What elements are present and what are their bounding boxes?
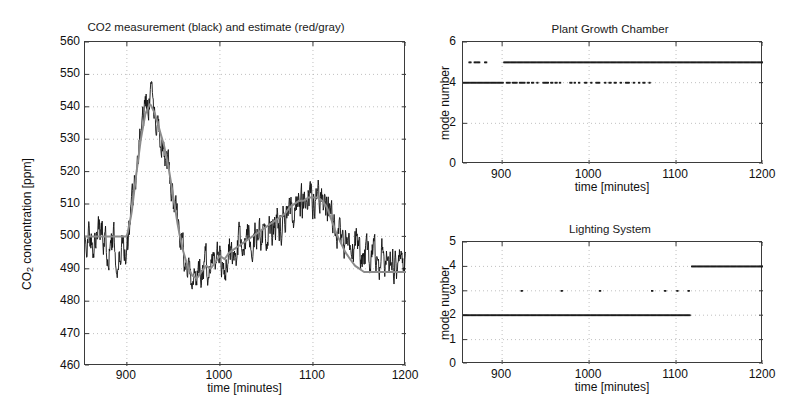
plant-growth-chamber-axes — [462, 41, 762, 163]
co2-plot-xaxis-label: time [minutes] — [84, 381, 405, 395]
lighting-system-modes-xtick-1100: 1100 — [662, 367, 688, 381]
lighting-system-yaxis-label: mode number — [438, 266, 452, 340]
plant-growth-chamber-xaxis-label: time [minutes] — [462, 180, 762, 194]
lighting-system-modes-xtick-1000: 1000 — [575, 367, 602, 381]
lighting-system-modes-xtick-900: 900 — [491, 367, 511, 381]
plant-growth-chamber-modes-ytick-0: 0 — [436, 156, 456, 170]
co2-ytick-530: 530 — [36, 131, 80, 145]
co2-ytick-480: 480 — [36, 293, 80, 307]
co2-plot-yaxis-label: CO2 concentration [ppm] — [20, 158, 35, 290]
ylabel-prefix: CO — [20, 272, 34, 290]
lighting-system-axes — [462, 241, 762, 363]
plant-growth-chamber-modes-xtick-900: 900 — [491, 167, 511, 181]
co2-ytick-540: 540 — [36, 99, 80, 113]
co2-ytick-500: 500 — [36, 228, 80, 242]
co2-ytick-510: 510 — [36, 196, 80, 210]
plant-growth-chamber-panel: Plant Growth Chamber 6420 90010001100120… — [432, 0, 812, 210]
co2-plot-title: CO2 measurement (black) and estimate (re… — [0, 21, 432, 33]
co2-ytick-560: 560 — [36, 34, 80, 48]
lighting-system-canvas — [463, 242, 763, 364]
ylabel-suffix: concentration [ppm] — [20, 158, 34, 267]
plant-growth-chamber-modes-ytick-6: 6 — [436, 34, 456, 48]
co2-ytick-550: 550 — [36, 66, 80, 80]
co2-ytick-470: 470 — [36, 326, 80, 340]
plant-growth-chamber-canvas — [463, 42, 763, 164]
co2-plot-axes — [84, 41, 405, 365]
lighting-system-modes-xtick-1200: 1200 — [749, 367, 776, 381]
figure-root: CO2 measurement (black) and estimate (re… — [0, 0, 812, 419]
co2-ytick-460: 460 — [36, 358, 80, 372]
plant-growth-chamber-modes-xtick-1000: 1000 — [575, 167, 602, 181]
lighting-system-xaxis-label: time [minutes] — [462, 380, 762, 394]
plant-growth-chamber-modes-xtick-1100: 1100 — [662, 167, 688, 181]
lighting-system-modes-ytick-0: 0 — [436, 356, 456, 370]
co2-xtick-1000: 1000 — [206, 368, 233, 382]
plant-growth-chamber-yaxis-label: mode number — [438, 66, 452, 140]
co2-plot-canvas — [85, 42, 406, 366]
co2-ytick-490: 490 — [36, 261, 80, 275]
co2-xtick-1200: 1200 — [392, 368, 419, 382]
lighting-system-panel: Lighting System 543210 900100011001200 t… — [432, 210, 812, 419]
plant-growth-chamber-title: Plant Growth Chamber — [460, 23, 760, 35]
plant-growth-chamber-modes-xtick-1200: 1200 — [749, 167, 776, 181]
lighting-system-modes-ytick-5: 5 — [436, 234, 456, 248]
ylabel-subscript: 2 — [25, 267, 35, 272]
co2-ytick-520: 520 — [36, 164, 80, 178]
co2-xtick-1100: 1100 — [299, 368, 325, 382]
co2-xtick-900: 900 — [116, 368, 136, 382]
lighting-system-title: Lighting System — [460, 223, 760, 235]
co2-plot-panel: CO2 measurement (black) and estimate (re… — [0, 0, 432, 419]
